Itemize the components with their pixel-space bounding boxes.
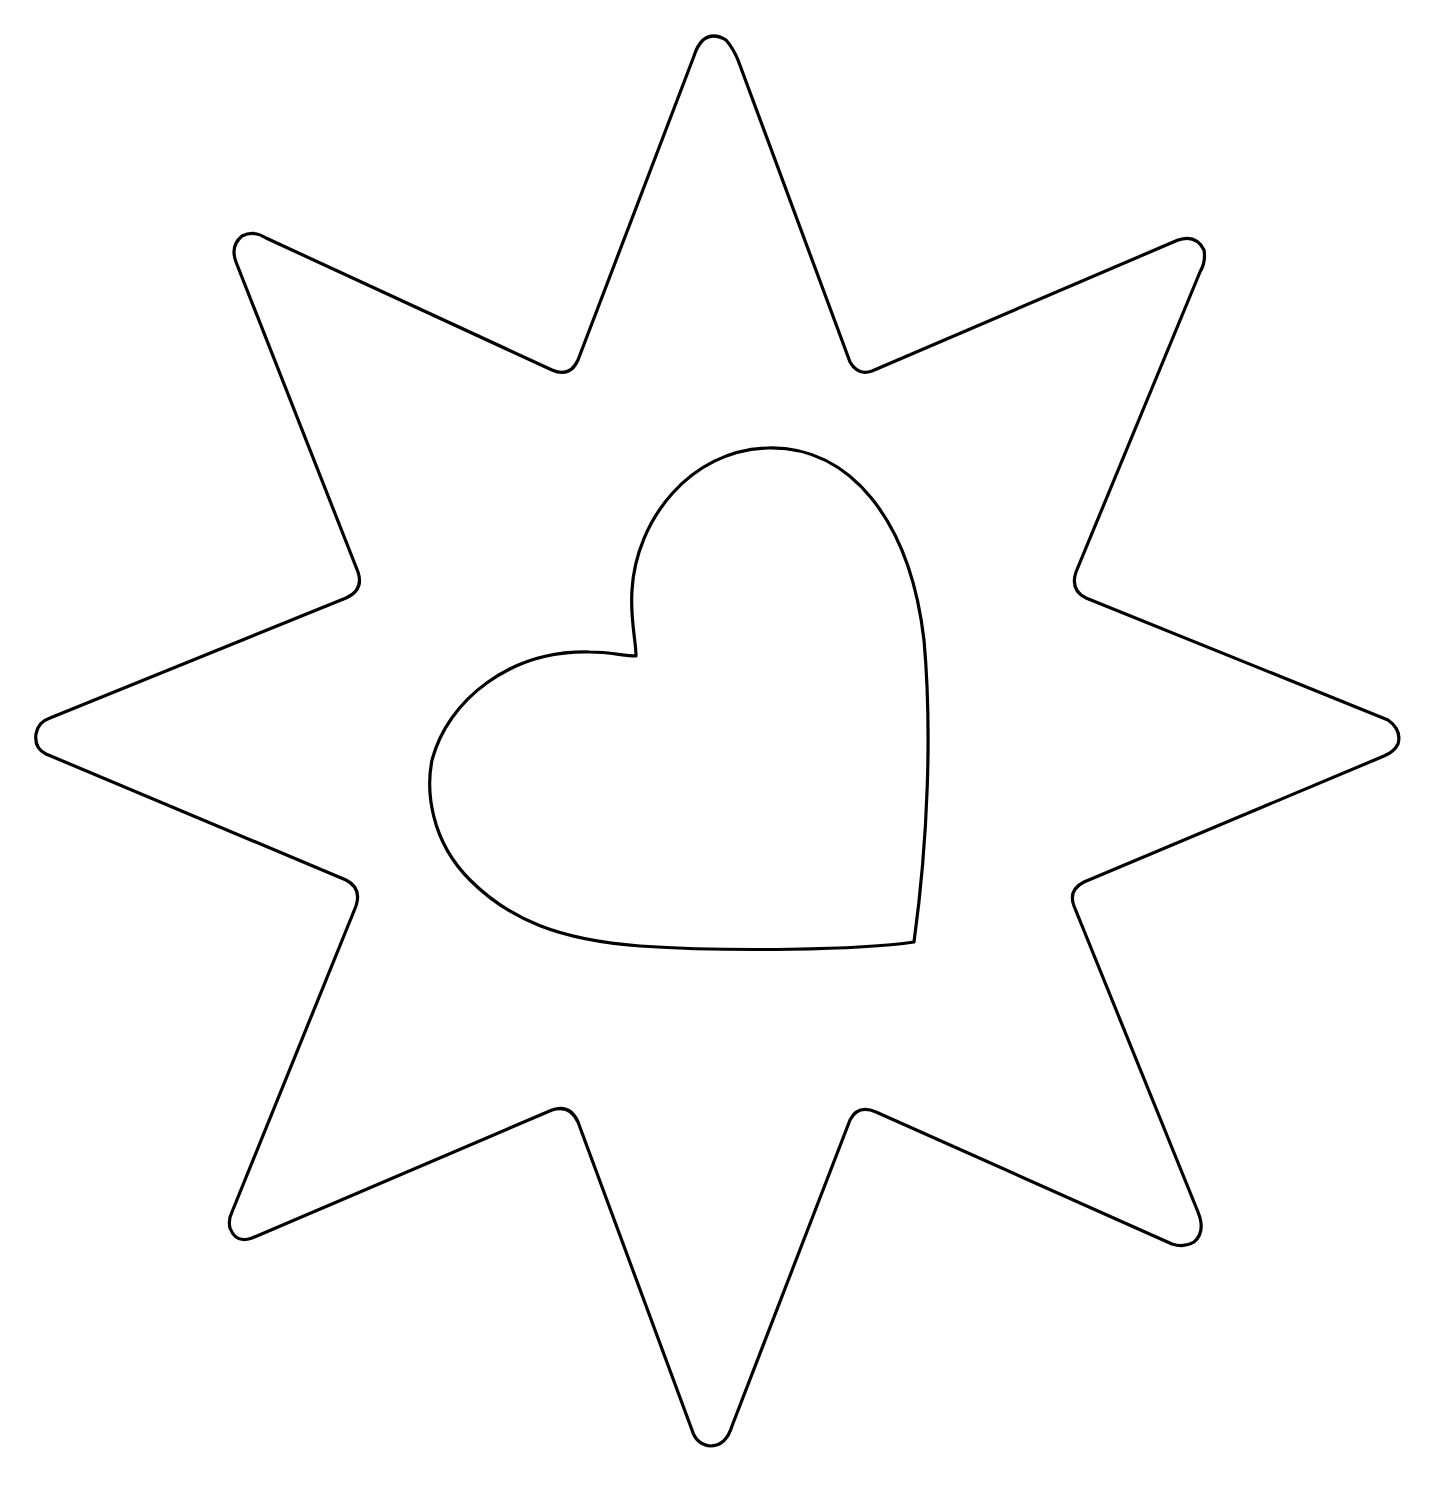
star-outline [36,36,1399,1446]
coloring-page-drawing [0,0,1440,1490]
heart-outline [430,448,928,950]
coloring-page-canvas [0,0,1440,1490]
